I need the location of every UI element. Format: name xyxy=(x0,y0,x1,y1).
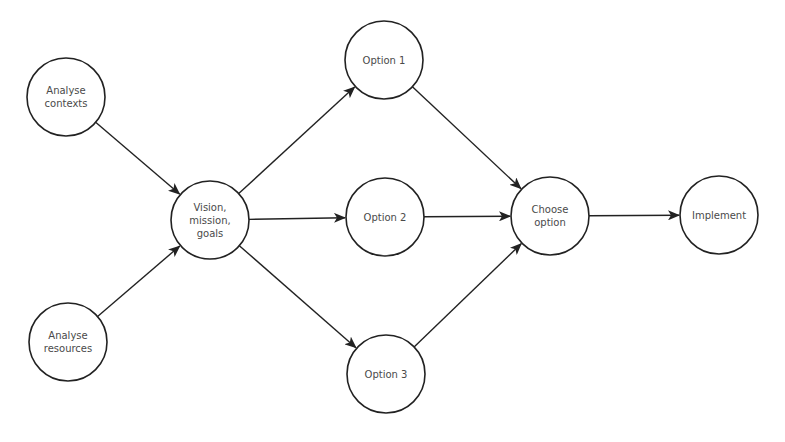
node-label: goals xyxy=(197,228,224,239)
node-option-3: Option 3 xyxy=(347,335,425,413)
node-label: Vision, xyxy=(193,202,226,213)
node-label: Choose xyxy=(532,204,569,215)
node-circle xyxy=(27,58,105,136)
node-label: Implement xyxy=(692,210,746,221)
node-label: option xyxy=(534,217,566,228)
node-analyse-resources: Analyseresources xyxy=(29,303,107,381)
node-label: contexts xyxy=(45,98,88,109)
node-implement: Implement xyxy=(680,176,758,254)
arrow-option-1-to-choose-option xyxy=(412,87,520,189)
node-circle xyxy=(29,303,107,381)
node-label: Option 2 xyxy=(364,212,407,223)
node-label: Option 3 xyxy=(365,369,408,380)
flow-diagram: AnalysecontextsAnalyseresourcesVision,mi… xyxy=(0,0,785,442)
arrow-option-3-to-choose-option xyxy=(414,244,521,347)
arrow-vision-to-option-1 xyxy=(239,87,355,194)
node-choose-option: Chooseoption xyxy=(511,177,589,255)
node-option-1: Option 1 xyxy=(345,21,423,99)
node-analyse-contexts: Analysecontexts xyxy=(27,58,105,136)
node-label: Analyse xyxy=(48,330,87,341)
node-label: resources xyxy=(44,343,92,354)
arrow-choose-option-to-implement xyxy=(589,215,679,216)
arrow-vision-to-option-3 xyxy=(239,246,356,348)
node-label: mission, xyxy=(189,215,230,226)
node-label: Option 1 xyxy=(363,55,406,66)
node-vision: Vision,mission,goals xyxy=(171,181,249,259)
arrow-vision-to-option-2 xyxy=(249,218,345,220)
arrow-analyse-resources-to-vision xyxy=(98,246,180,317)
arrow-analyse-contexts-to-vision xyxy=(96,122,180,194)
arrow-option-2-to-choose-option xyxy=(424,216,510,217)
node-label: Analyse xyxy=(46,85,85,96)
node-option-2: Option 2 xyxy=(346,178,424,256)
node-circle xyxy=(511,177,589,255)
